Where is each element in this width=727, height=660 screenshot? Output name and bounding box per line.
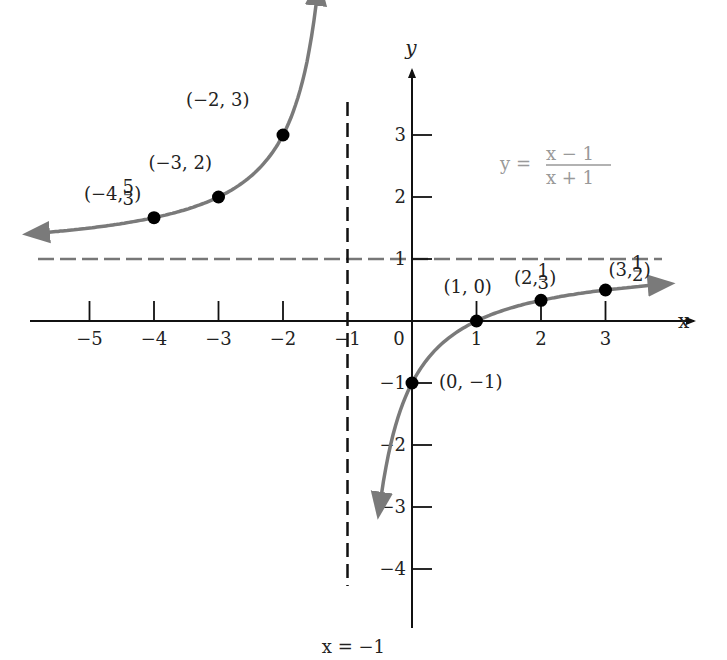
- fraction-denominator: 3: [123, 188, 134, 209]
- point-label: (0, −1): [439, 371, 502, 392]
- point-label: (−2, 3): [186, 89, 249, 110]
- x-tick-label: 3: [600, 328, 611, 349]
- data-point: [212, 191, 225, 204]
- x-tick-label: −1: [334, 328, 361, 349]
- point-label: (1, 0): [444, 276, 492, 297]
- data-points: (−4, 53)(−3, 2)(−2, 3)(0, −1)(1, 0)(2, 1…: [84, 89, 651, 392]
- point-label-text: (0, −1): [439, 371, 502, 392]
- point-label-text: (3,: [609, 259, 633, 280]
- fraction-denominator: 3: [537, 272, 548, 293]
- point-label-text: (2,: [514, 267, 538, 288]
- x-tick-label: −3: [205, 328, 232, 349]
- point-label-text: (1, 0): [444, 276, 492, 297]
- y-tick-label: 2: [395, 186, 406, 207]
- data-point: [277, 129, 290, 142]
- point-label: (3, 12): [609, 252, 651, 285]
- y-tick-label: 3: [395, 124, 406, 145]
- x-tick-label: 0: [393, 328, 404, 349]
- axes: x y −5−4−3−2−10123 321−1−2−3−4: [30, 36, 694, 628]
- point-label: (−3, 2): [149, 152, 212, 173]
- x-tick-label: 1: [471, 328, 482, 349]
- point-label-text: (−3, 2): [149, 152, 212, 173]
- point-label: (−4, 53): [84, 176, 141, 209]
- x-axis-label: x: [678, 309, 690, 333]
- x-tick-label: −2: [270, 328, 297, 349]
- x-tick-label: 2: [535, 328, 546, 349]
- data-point: [535, 294, 548, 307]
- data-point: [599, 284, 612, 297]
- x-tick-label: −4: [141, 328, 168, 349]
- y-tick-label: −1: [379, 372, 406, 393]
- point-label: (2, 13): [514, 260, 556, 293]
- y-ticks: 321−1−2−3−4: [379, 124, 432, 579]
- data-point: [406, 377, 419, 390]
- point-label-text: (−2, 3): [186, 89, 249, 110]
- point-label-end: ): [644, 259, 651, 280]
- fraction-denominator: 2: [632, 264, 643, 285]
- right-branch-curve: [381, 284, 670, 498]
- y-tick-label: 1: [395, 248, 406, 269]
- data-point: [148, 211, 161, 224]
- x-tick-label: −5: [76, 328, 103, 349]
- point-label-end: ): [549, 267, 556, 288]
- point-label-text: (−4,: [84, 183, 123, 204]
- y-tick-label: −4: [379, 558, 406, 579]
- formula-denominator: x + 1: [546, 167, 594, 188]
- y-axis-label: y: [404, 36, 417, 60]
- y-tick-label: −3: [379, 496, 406, 517]
- x-ticks: −5−4−3−2−10123: [76, 301, 611, 349]
- curves: [44, 0, 670, 498]
- formula-numerator: x − 1: [546, 143, 594, 164]
- rational-function-graph: x = −1 x y −5−4−3−2−10123 321−1−2−3−4 (−…: [0, 0, 727, 660]
- formula-lhs: y =: [499, 153, 531, 174]
- point-label-end: ): [134, 183, 141, 204]
- function-formula: y = x − 1 x + 1: [499, 143, 611, 188]
- vertical-asymptote-label: x = −1: [322, 636, 385, 657]
- data-point: [470, 315, 483, 328]
